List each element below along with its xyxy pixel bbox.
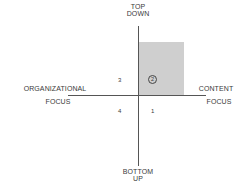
axis-label-top-line2: DOWN <box>118 10 158 17</box>
axis-label-bottom-line2: UP <box>113 175 163 182</box>
quadrant-3-label: 3 <box>118 77 121 83</box>
axis-label-right-line1: CONTENT <box>192 85 240 92</box>
axis-label-right-line2: FOCUS <box>192 98 240 105</box>
axis-label-bottom: BOTTOM UP <box>113 168 163 182</box>
highlighted-quadrant-2 <box>139 42 184 95</box>
axis-label-left-line1: ORGANIZATIONAL <box>14 85 96 92</box>
axis-label-bottom-line1: BOTTOM <box>113 168 163 175</box>
quadrant-2-label: 2 <box>148 75 157 84</box>
axis-label-top: TOP DOWN <box>118 3 158 17</box>
quadrant-diagram: TOP DOWN BOTTOM UP ORGANIZATIONAL FOCUS … <box>0 0 247 191</box>
vertical-axis <box>138 26 139 166</box>
quadrant-4-label: 4 <box>118 108 121 114</box>
axis-label-left-line2: FOCUS <box>14 98 96 105</box>
axis-label-right: CONTENT FOCUS <box>192 85 240 105</box>
quadrant-1-label: 1 <box>151 108 154 114</box>
axis-label-top-line1: TOP <box>118 3 158 10</box>
axis-label-left: ORGANIZATIONAL FOCUS <box>14 85 96 105</box>
